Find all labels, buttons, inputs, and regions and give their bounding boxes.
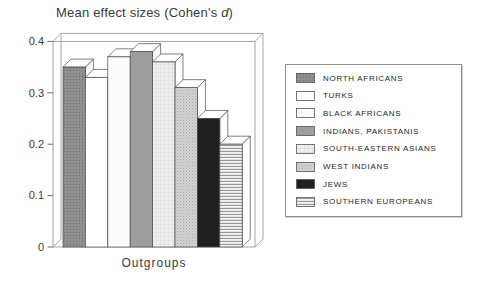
- bar-front-face: [63, 67, 85, 247]
- bar-front-face: [220, 144, 242, 247]
- legend-label: WEST INDIANS: [323, 162, 389, 171]
- legend-label: TURKS: [323, 91, 354, 100]
- y-axis-ticks: 00.10.20.30.4: [29, 35, 53, 253]
- bar-front-face: [197, 119, 219, 248]
- legend-item: SOUTHERN EUROPEANS: [296, 197, 455, 207]
- y-tick-label: 0.1: [29, 189, 44, 201]
- y-tick-label: 0.4: [29, 35, 44, 47]
- legend-swatch-indians-pakistanis: [297, 127, 315, 136]
- bar-southern-europeans: [220, 136, 250, 247]
- legend-box: NORTH AFRICANS TURKS BLACK AFRICANS INDI…: [285, 64, 462, 217]
- bar-chart-canvas: 00.10.20.30.4: [0, 0, 290, 287]
- legend-swatch-jews: [297, 180, 315, 189]
- legend-label: SOUTH-EASTERN ASIANS: [323, 144, 437, 153]
- y-tick-label: 0.2: [29, 138, 44, 150]
- legend-swatch-southern-europeans: [297, 197, 315, 206]
- bar-front-face: [130, 52, 152, 247]
- y-tick-label: 0: [38, 241, 44, 253]
- legend-swatch-turks: [297, 91, 315, 100]
- bar-front-face: [153, 62, 175, 247]
- legend-swatch-north-africans: [297, 74, 315, 83]
- y-tick-label: 0.3: [29, 87, 44, 99]
- legend-swatch-black-africans: [297, 109, 315, 118]
- x-axis-label: Outgroups: [53, 256, 255, 270]
- legend-item: SOUTH-EASTERN ASIANS: [296, 144, 455, 154]
- bar-side-face: [242, 136, 250, 247]
- legend-item: TURKS: [296, 91, 455, 101]
- legend-swatch-south-eastern-asians: [297, 144, 315, 153]
- bar-front-face: [85, 77, 107, 247]
- legend-item: BLACK AFRICANS: [296, 108, 455, 118]
- bar-front-face: [175, 88, 197, 247]
- bars: [63, 44, 250, 247]
- legend-item: NORTH AFRICANS: [296, 73, 455, 83]
- legend-label: BLACK AFRICANS: [323, 108, 401, 117]
- bar-front-face: [108, 57, 130, 247]
- legend-item: JEWS: [296, 179, 455, 189]
- legend-label: NORTH AFRICANS: [323, 73, 403, 82]
- legend-item: INDIANS, PAKISTANIS: [296, 126, 455, 136]
- legend-item: WEST INDIANS: [296, 162, 455, 172]
- legend-label: SOUTHERN EUROPEANS: [323, 197, 433, 206]
- legend-swatch-west-indians: [297, 162, 315, 171]
- figure-mean-effect-sizes: Mean effect sizes (Cohen's d) 00.10.20.3…: [0, 0, 487, 287]
- legend-label: INDIANS, PAKISTANIS: [323, 126, 419, 135]
- legend-label: JEWS: [323, 179, 348, 188]
